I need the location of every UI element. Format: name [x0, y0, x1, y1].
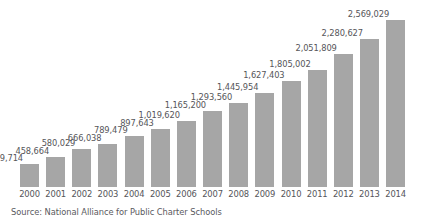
bar-value-label: 1,293,560 — [191, 93, 232, 102]
bar — [255, 93, 274, 187]
x-axis-tick-2013: 2013 — [356, 189, 383, 200]
x-axis-tick-2004: 2004 — [121, 189, 148, 200]
bar — [20, 164, 39, 187]
bar-value-label: 1,805,002 — [269, 60, 310, 69]
bar — [386, 20, 405, 187]
bar — [98, 144, 117, 187]
bar — [308, 70, 327, 187]
bar — [46, 157, 65, 187]
bar-chart: 349,714458,664580,029666,038789,479897,6… — [0, 0, 426, 223]
x-axis-tick-2009: 2009 — [251, 189, 278, 200]
x-axis-tick-2000: 2000 — [16, 189, 43, 200]
bar-group: 897,643 — [151, 0, 170, 187]
bar-value-label: 458,664 — [16, 147, 50, 156]
x-axis-tick-2005: 2005 — [147, 189, 174, 200]
x-axis-tick-2012: 2012 — [330, 189, 357, 200]
x-axis: 2000200120022003200420052006200720082009… — [0, 187, 426, 203]
bar-value-label: 1,445,954 — [217, 83, 258, 92]
bar-value-label: 1,165,200 — [165, 101, 206, 110]
bar-group: 458,664 — [46, 0, 65, 187]
bar — [203, 111, 222, 187]
x-axis-tick-2006: 2006 — [173, 189, 200, 200]
bar-value-label: 666,038 — [68, 134, 102, 143]
bar — [360, 39, 379, 187]
bar-group: 580,029 — [72, 0, 91, 187]
bar-group: 1,293,560 — [229, 0, 248, 187]
x-axis-tick-2002: 2002 — [68, 189, 95, 200]
bar — [334, 54, 353, 187]
x-axis-tick-2014: 2014 — [382, 189, 409, 200]
x-axis-tick-2003: 2003 — [94, 189, 121, 200]
bar — [151, 129, 170, 187]
x-axis-tick-2001: 2001 — [42, 189, 69, 200]
bar — [177, 121, 196, 187]
bar — [72, 149, 91, 187]
bar-group: 789,479 — [125, 0, 144, 187]
source-note: Source: National Alliance for Public Cha… — [11, 207, 222, 218]
x-axis-tick-2011: 2011 — [304, 189, 331, 200]
plot-area: 349,714458,664580,029666,038789,479897,6… — [0, 0, 426, 187]
x-axis-tick-2010: 2010 — [278, 189, 305, 200]
bar-value-label: 897,643 — [120, 119, 154, 128]
x-axis-tick-2007: 2007 — [199, 189, 226, 200]
bar — [125, 136, 144, 187]
bar-group: 1,445,954 — [255, 0, 274, 187]
bar-value-label: 2,569,029 — [348, 10, 389, 19]
bar-value-label: 1,627,403 — [243, 71, 284, 80]
bar-group: 1,627,403 — [282, 0, 301, 187]
x-axis-tick-2008: 2008 — [225, 189, 252, 200]
bar-group: 349,714 — [20, 0, 39, 187]
bar-group: 666,038 — [98, 0, 117, 187]
bar-value-label: 2,051,809 — [295, 44, 336, 53]
bar-group: 2,569,029 — [386, 0, 405, 187]
bar-value-label: 2,280,627 — [322, 29, 363, 38]
bar — [282, 81, 301, 187]
bar — [229, 103, 248, 187]
bar-group: 2,280,627 — [360, 0, 379, 187]
bar-value-label: 1,019,620 — [139, 111, 180, 120]
